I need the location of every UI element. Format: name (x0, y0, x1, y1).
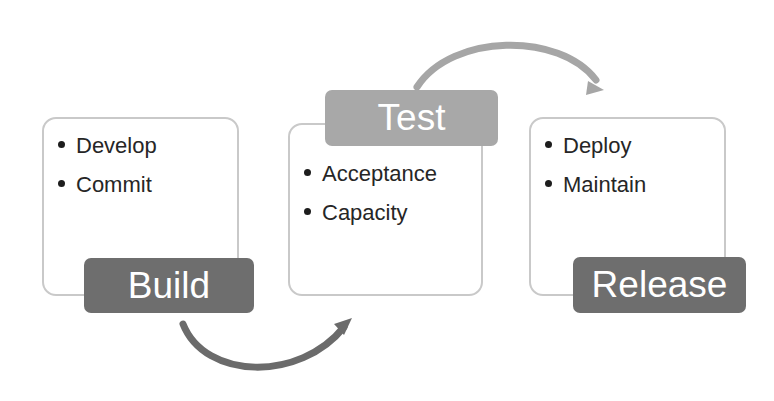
list-item-label: Commit (76, 174, 152, 196)
connector-build-to-test-icon (183, 318, 352, 367)
list-item: Acceptance (304, 163, 437, 185)
bullet-icon (58, 180, 65, 187)
list-item: Develop (58, 135, 157, 157)
stage-label-test: Test (325, 90, 498, 146)
list-item-label: Maintain (563, 174, 646, 196)
stage-items-test: Acceptance Capacity (304, 163, 437, 224)
connector-test-to-release-icon (417, 45, 604, 95)
list-item: Deploy (545, 135, 646, 157)
stage-label-text: Test (378, 97, 446, 139)
list-item-label: Develop (76, 135, 157, 157)
stage-card-test: Acceptance Capacity (288, 123, 483, 296)
stage-label-text: Build (128, 265, 210, 307)
stage-label-build: Build (84, 258, 254, 313)
bullet-icon (304, 208, 311, 215)
bullet-icon (304, 169, 311, 176)
list-item: Maintain (545, 174, 646, 196)
bullet-icon (58, 141, 65, 148)
stage-label-release: Release (573, 257, 746, 313)
list-item-label: Deploy (563, 135, 631, 157)
list-item: Commit (58, 174, 157, 196)
stage-items-release: Deploy Maintain (545, 135, 646, 196)
list-item: Capacity (304, 202, 437, 224)
stage-label-text: Release (592, 264, 728, 306)
list-item-label: Capacity (322, 202, 408, 224)
bullet-icon (545, 141, 552, 148)
list-item-label: Acceptance (322, 163, 437, 185)
bullet-icon (545, 180, 552, 187)
stage-items-build: Develop Commit (58, 135, 157, 196)
diagram-canvas: Develop Commit Build Acceptance Capacity… (0, 0, 774, 401)
